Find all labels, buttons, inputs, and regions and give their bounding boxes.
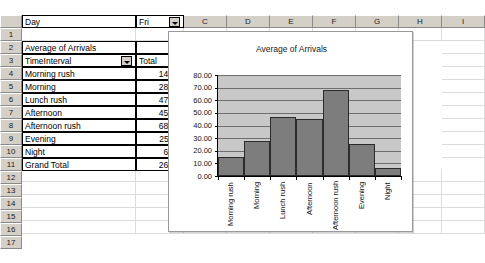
chart-bar[interactable] [296,119,322,176]
chart-bar[interactable] [323,90,349,176]
chart-bar[interactable] [218,157,244,176]
grid-cell[interactable] [22,221,136,234]
grid-cell[interactable] [442,221,485,234]
chart-gridline [218,113,401,114]
row-header-17[interactable]: 17 [0,236,22,249]
chart-y-tick-mark [215,100,218,101]
cell-a9-label[interactable]: Afternoon rush [22,119,136,132]
day-filter-chevron-down-icon[interactable] [169,17,180,27]
chart-y-tick-mark [215,151,218,152]
chart-y-tick-label: 70.00 [168,84,212,91]
chart-x-tick-mark [244,176,245,180]
chart-gridline [218,100,401,101]
chart-x-category-label: Morning [252,182,261,230]
chart-x-tick-mark [218,176,219,180]
row-header-9[interactable]: 9 [0,132,22,145]
select-all-corner[interactable] [0,15,22,28]
row-header-2[interactable]: 2 [0,41,22,54]
cell-a7-label[interactable]: Lunch rush [22,93,136,106]
grid-cell[interactable] [22,208,136,221]
column-header-g[interactable]: G [356,15,399,28]
chart-x-tick-mark [323,176,324,180]
row-header-4[interactable]: 4 [0,67,22,80]
chart-bar[interactable] [270,117,296,176]
row-header-3[interactable]: 3 [0,54,22,67]
chart-y-tick-mark [215,75,218,76]
row-header-6[interactable]: 6 [0,93,22,106]
chart-x-tick-mark [375,176,376,180]
chart-x-tick-mark [296,176,297,180]
column-header-i[interactable]: I [442,15,485,28]
column-header-h[interactable]: H [399,15,442,28]
chart-gridline [218,75,401,76]
chart-x-tick-mark [270,176,271,180]
chart-x-category-label: Night [383,182,392,230]
grid-cell[interactable] [442,93,485,106]
chart-x-category-label: Evening [357,182,366,230]
column-header-c[interactable]: C [184,15,227,28]
row-header-5[interactable]: 5 [0,80,22,93]
cell-a6-label[interactable]: Morning [22,80,136,93]
chart-y-tick-label: 30.00 [168,135,212,142]
grid-cell[interactable] [22,195,136,208]
column-header-d[interactable]: D [227,15,270,28]
chart-bar[interactable] [375,168,401,176]
embedded-chart[interactable]: Average of Arrivals 0.0010.0020.0030.004… [168,31,413,232]
chart-bar[interactable] [349,144,375,176]
cell-a8-label[interactable]: Afternoon [22,106,136,119]
grid-cell[interactable] [442,195,485,208]
row-header-16[interactable]: 16 [0,223,22,236]
grid-cell[interactable] [442,145,485,158]
chart-gridline [218,88,401,89]
column-header-e[interactable]: E [270,15,313,28]
cell-a1-day-label[interactable]: Day [22,15,136,28]
grid-cell[interactable] [442,169,485,182]
chart-bar[interactable] [244,141,270,176]
chart-y-tick-label: 80.00 [168,72,212,79]
chart-y-tick-label: 50.00 [168,109,212,116]
chart-x-category-label: Afternoon [305,182,314,230]
chart-y-tick-label: 20.00 [168,147,212,154]
grid-cell[interactable] [442,106,485,119]
chart-plot-area: 0.0010.0020.0030.0040.0050.0060.0070.008… [217,75,401,177]
row-header-12[interactable]: 12 [0,171,22,184]
grid-cell[interactable] [22,28,136,41]
row-header-10[interactable]: 10 [0,145,22,158]
grid-cell[interactable] [22,182,136,195]
row-header-1[interactable]: 1 [0,28,22,41]
chart-x-category-label: Afternoon rush [331,182,340,230]
grid-cell[interactable] [442,132,485,145]
chart-x-category-label: Morning rush [226,182,235,230]
chart-x-tick-mark [401,176,402,180]
cell-a3-average-of-arrivals[interactable]: Average of Arrivals [22,41,136,54]
grid-cell[interactable] [442,54,485,67]
grid-cell[interactable] [442,41,485,54]
chart-y-tick-label: 60.00 [168,97,212,104]
chart-y-tick-mark [215,88,218,89]
chart-y-tick-label: 40.00 [168,122,212,129]
cell-a12-grand-total-label[interactable]: Grand Total [22,158,136,171]
chart-x-category-label: Lunch rush [278,182,287,230]
spreadsheet-grid[interactable]: A B C D E F G H I 1 2 3 4 5 6 7 8 9 10 1… [0,0,485,263]
column-header-f[interactable]: F [313,15,356,28]
grid-cell[interactable] [442,208,485,221]
chart-y-tick-mark [215,126,218,127]
grid-cell[interactable] [442,28,485,41]
chart-y-tick-mark [215,113,218,114]
grid-cell[interactable] [442,119,485,132]
row-header-14[interactable]: 14 [0,197,22,210]
row-header-13[interactable]: 13 [0,184,22,197]
timeinterval-filter-chevron-down-icon[interactable] [121,56,132,66]
grid-cell[interactable] [442,80,485,93]
chart-x-tick-mark [349,176,350,180]
grid-cell[interactable] [442,67,485,80]
row-header-8[interactable]: 8 [0,119,22,132]
row-header-15[interactable]: 15 [0,210,22,223]
row-header-11[interactable]: 11 [0,158,22,171]
cell-a4-timeinterval-header[interactable]: TimeInterval [22,54,136,67]
cell-a5-label[interactable]: Morning rush [22,67,136,80]
cell-a11-label[interactable]: Night [22,145,136,158]
grid-cell[interactable] [442,182,485,195]
row-header-7[interactable]: 7 [0,106,22,119]
cell-a10-label[interactable]: Evening [22,132,136,145]
